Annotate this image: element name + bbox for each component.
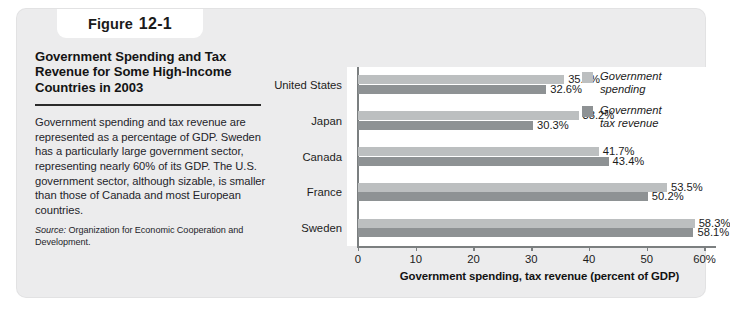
category-label: France — [307, 185, 342, 199]
x-tick-label: 60% — [693, 253, 716, 265]
bar-spending — [358, 219, 695, 228]
category-label: Sweden — [301, 221, 342, 235]
x-tick-label: 0 — [355, 253, 361, 265]
legend-label-spending-line2: spending — [600, 83, 722, 96]
x-axis-title: Government spending, tax revenue (percen… — [357, 270, 722, 282]
figure-title-line-3: Countries in 2003 — [35, 80, 280, 95]
bar-tax-revenue — [358, 192, 648, 201]
chart-legend: Government spending Government tax reven… — [582, 70, 722, 138]
bar-tax-revenue — [358, 157, 609, 166]
source-text: Organization for Economic Cooperation an… — [35, 225, 243, 246]
category-label: Japan — [311, 114, 342, 128]
x-tick — [589, 246, 590, 251]
x-tick — [647, 246, 648, 251]
figure-title: Government Spending and Tax Revenue for … — [35, 49, 280, 95]
x-tick — [416, 246, 417, 251]
x-tick-label: 30 — [525, 253, 538, 265]
bar-value-label: 50.2% — [652, 190, 684, 202]
figure-number-tab: Figure 12-1 — [57, 9, 203, 38]
figure-caption: Government spending and tax revenue are … — [35, 115, 280, 217]
legend-label-spending-line1: Government — [600, 70, 722, 83]
bar-value-label: 30.3% — [537, 119, 569, 131]
bar-tax-revenue — [358, 121, 533, 130]
figure-number: 12-1 — [139, 15, 172, 33]
x-tick-label: 20 — [467, 253, 480, 265]
category-label: Canada — [302, 150, 342, 164]
x-tick — [704, 246, 705, 251]
x-tick-label: 10 — [409, 253, 422, 265]
bar-chart: United StatesJapanCanadaFranceSweden 010… — [272, 56, 722, 296]
figure-title-line-1: Government Spending and Tax — [35, 49, 280, 64]
bar-tax-revenue — [358, 228, 693, 237]
figure-text-column: Government Spending and Tax Revenue for … — [35, 49, 280, 248]
category-label: United States — [274, 78, 342, 92]
bar-spending — [358, 147, 599, 156]
source-label: Source: — [35, 225, 66, 235]
x-axis-line — [357, 246, 716, 248]
category-axis-labels: United StatesJapanCanadaFranceSweden — [272, 67, 342, 246]
figure-source: Source: Organization for Economic Cooper… — [35, 225, 280, 248]
x-tick-label: 50 — [640, 253, 653, 265]
figure-label: Figure — [88, 16, 133, 32]
legend-item-government-spending: Government spending — [582, 70, 722, 95]
x-tick — [473, 246, 474, 251]
bar-value-label: 32.6% — [550, 83, 582, 95]
bar-tax-revenue — [358, 85, 546, 94]
legend-label-tax-line1: Government — [600, 104, 722, 117]
x-tick — [358, 246, 359, 251]
legend-label-tax-line2: tax revenue — [600, 117, 722, 130]
bar-spending — [358, 183, 667, 192]
x-tick — [531, 246, 532, 251]
legend-swatch-spending-icon — [582, 72, 593, 83]
x-tick-label: 40 — [583, 253, 596, 265]
bar-value-label: 58.1% — [697, 226, 729, 238]
figure-title-line-2: Revenue for Some High-Income — [35, 64, 280, 79]
bar-spending — [358, 75, 564, 84]
legend-item-government-tax-revenue: Government tax revenue — [582, 104, 722, 129]
figure-panel: Figure 12-1 Government Spending and Tax … — [17, 9, 705, 297]
bar-value-label: 43.4% — [613, 155, 645, 167]
title-divider — [35, 104, 261, 106]
legend-swatch-tax-icon — [582, 106, 593, 117]
